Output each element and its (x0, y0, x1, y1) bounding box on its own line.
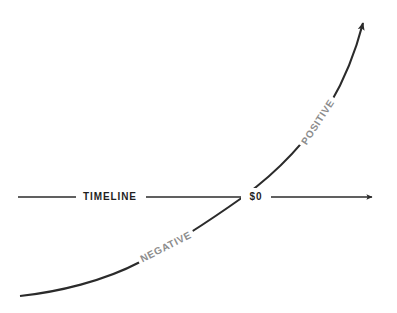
positive-curve-label: POSITIVE (299, 97, 336, 146)
cash-flow-curve-path (20, 23, 363, 296)
positive-label-group: POSITIVE (299, 97, 336, 146)
timeline-axis-label: TIMELINE (83, 191, 137, 202)
cash-flow-diagram: TIMELINE $0 NEGATIVE POSITIVE (0, 0, 397, 313)
zero-point-label: $0 (250, 191, 263, 202)
diagram-canvas: TIMELINE $0 NEGATIVE POSITIVE (0, 0, 397, 313)
